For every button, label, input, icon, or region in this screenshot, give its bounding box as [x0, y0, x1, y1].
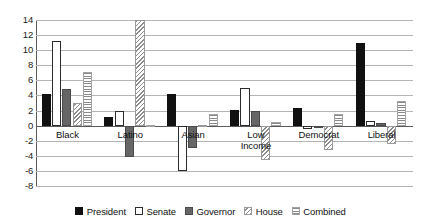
legend-item-combined[interactable]: Combined [292, 207, 346, 217]
legend-item-governor[interactable]: Governor [185, 207, 235, 217]
bar-president-asian [167, 94, 176, 126]
bar-group [99, 20, 162, 186]
legend-swatch-icon [75, 207, 83, 215]
legend-swatch-icon [135, 207, 143, 215]
legend-label: House [256, 207, 283, 217]
bar-group [225, 20, 288, 186]
legend-swatch-icon [292, 207, 300, 215]
bar-governor-democrat [314, 126, 323, 128]
bar-combined-liberal [397, 101, 406, 126]
y-axis-tick-label: -4 [3, 151, 33, 161]
bar-group [36, 20, 99, 186]
category-label: Latino [99, 129, 162, 140]
bar-combined-latino [146, 125, 155, 127]
y-axis-tick-label: 10 [3, 45, 33, 55]
y-axis-tick-label: 0 [3, 121, 33, 131]
bar-president-latino [104, 117, 113, 125]
y-axis-tick-label: 2 [3, 106, 33, 116]
bar-chart: 14121086420-2-4-6-8 PresidentSenateGover… [0, 0, 421, 224]
bar-combined-low-income [271, 122, 280, 126]
bar-senate-black [52, 41, 61, 126]
bar-combined-asian [209, 114, 218, 125]
y-axis-tick-label: -2 [3, 136, 33, 146]
legend-label: President [87, 207, 126, 217]
gridline [36, 186, 413, 187]
bar-senate-low-income [240, 88, 249, 126]
y-axis-tick-label: -8 [3, 181, 33, 191]
bar-governor-black [62, 89, 71, 126]
bar-house-latino [135, 20, 144, 126]
legend-label: Senate [146, 207, 176, 217]
legend-swatch-icon [244, 207, 252, 215]
legend-item-president[interactable]: President [75, 207, 126, 217]
y-axis-tick-label: 4 [3, 91, 33, 101]
bar-house-black [73, 103, 82, 126]
category-label: Liberal [350, 129, 413, 140]
y-axis-tick-label: -6 [3, 166, 33, 176]
plot-area [36, 20, 413, 186]
bar-governor-low-income [251, 111, 260, 125]
category-label: Democrat [287, 129, 350, 140]
bar-group [350, 20, 413, 186]
y-axis-tick-label: 8 [3, 61, 33, 71]
chart-legend: PresidentSenateGovernorHouseCombined [0, 207, 421, 217]
bar-president-democrat [293, 108, 302, 126]
bar-president-black [42, 94, 51, 126]
bar-governor-liberal [376, 123, 385, 125]
legend-label: Combined [303, 207, 346, 217]
bar-combined-black [83, 72, 92, 126]
y-axis-tick-label: 14 [3, 15, 33, 25]
bar-combined-democrat [334, 114, 343, 125]
bar-house-asian [198, 125, 207, 127]
legend-item-senate[interactable]: Senate [135, 207, 176, 217]
bar-president-low-income [230, 110, 239, 126]
category-label: Asian [162, 129, 225, 140]
y-axis-tick-label: 6 [3, 76, 33, 86]
category-label: Low Income [225, 129, 288, 151]
y-axis-tick-label: 12 [3, 30, 33, 40]
legend-label: Governor [196, 207, 235, 217]
bar-president-liberal [356, 43, 365, 126]
bar-group [162, 20, 225, 186]
legend-item-house[interactable]: House [244, 207, 282, 217]
bar-senate-liberal [366, 121, 375, 126]
bar-group [287, 20, 350, 186]
y-axis-tick-labels: 14121086420-2-4-6-8 [0, 20, 33, 186]
bar-senate-latino [115, 111, 124, 126]
category-label: Black [36, 129, 99, 140]
legend-swatch-icon [185, 207, 193, 215]
